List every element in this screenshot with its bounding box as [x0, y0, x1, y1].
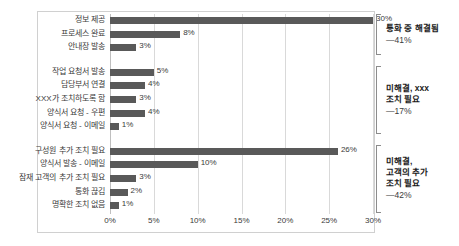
bar-row: 명확한 조치 없음1%	[110, 200, 373, 212]
bar	[110, 123, 119, 130]
bar-row: 통화 끊김2%	[110, 187, 373, 199]
x-tick-label: 25%	[321, 216, 337, 225]
bar-value-label: 2%	[131, 185, 143, 197]
bar	[110, 148, 338, 155]
bar-value-label: 4%	[148, 106, 160, 118]
group-annotation: 미해결, xxx 조치 필요—17%	[376, 66, 459, 134]
bar	[110, 96, 136, 103]
bar-row: 양식서 요청 - 우편4%	[110, 108, 373, 120]
bar-value-label: 3%	[139, 40, 151, 52]
annotation-text: 미해결, xxx 조치 필요—17%	[381, 83, 429, 117]
group-annotations: 통화 중 해결됨—41%미해결, xxx 조치 필요—17%미해결, 고객의 추…	[376, 0, 459, 246]
bar-value-label: 10%	[201, 157, 217, 169]
bar-value-label: 3%	[139, 171, 151, 183]
category-label: 정보 제공	[0, 14, 110, 26]
bar	[110, 202, 119, 209]
chart-page: 정보 제공30%프로세스 완료8%안내장 발송3%작업 요청서 발송5%담당부서…	[0, 0, 459, 246]
bar-row: 담당부서 연결4%	[110, 80, 373, 92]
category-label: 명확한 조치 없음	[0, 199, 110, 211]
x-tick-label: 20%	[277, 216, 293, 225]
bar-row: XXX가 조치하도록 함3%	[110, 94, 373, 106]
bar-row: 양식서 발송 - 이메일10%	[110, 159, 373, 171]
bar	[110, 69, 154, 76]
bar-row: 잠재 고객의 추가 조치 필요3%	[110, 173, 373, 185]
bar-value-label: 1%	[122, 198, 134, 210]
gridline-30	[373, 14, 374, 214]
bar-row: 작업 요청서 발송5%	[110, 67, 373, 79]
x-tick-label: 5%	[148, 216, 160, 225]
bar-rows: 정보 제공30%프로세스 완료8%안내장 발송3%작업 요청서 발송5%담당부서…	[110, 14, 373, 214]
annotation-title: 미해결, 고객의 추가 조치 필요	[386, 156, 428, 189]
bar-value-label: 3%	[139, 92, 151, 104]
bar-row: 안내장 발송3%	[110, 42, 373, 54]
group-annotation: 미해결, 고객의 추가 조치 필요—42%	[376, 145, 459, 213]
bar-row: 프로세스 완료8%	[110, 29, 373, 41]
annotation-text: 미해결, 고객의 추가 조치 필요—42%	[381, 156, 428, 201]
bar	[110, 31, 180, 38]
bar-value-label: 1%	[122, 119, 134, 131]
category-label: 양식서 발송 - 이메일	[0, 158, 110, 170]
bar	[110, 189, 128, 196]
category-label: 양식서 요청 - 우편	[0, 107, 110, 119]
annotation-value: —17%	[386, 106, 429, 117]
bar	[110, 44, 136, 51]
annotation-value: —42%	[386, 190, 428, 201]
annotation-text: 통화 중 해결됨—41%	[381, 23, 439, 46]
bar	[110, 82, 145, 89]
bar-value-label: 8%	[183, 27, 195, 39]
x-tick-label: 15%	[233, 216, 249, 225]
bar-value-label: 5%	[157, 65, 169, 77]
category-label: 프로세스 완료	[0, 28, 110, 40]
category-label: 통화 끊김	[0, 186, 110, 198]
category-label: 구성원 추가 조치 필요	[0, 145, 110, 157]
annotation-title: 통화 중 해결됨	[386, 23, 439, 34]
group-annotation: 통화 중 해결됨—41%	[376, 14, 459, 55]
plot-area: 정보 제공30%프로세스 완료8%안내장 발송3%작업 요청서 발송5%담당부서…	[110, 14, 373, 214]
category-label: 양식서 요청 - 이메일	[0, 120, 110, 132]
bar-value-label: 4%	[148, 78, 160, 90]
x-tick-label: 0%	[104, 216, 116, 225]
bar	[110, 161, 198, 168]
x-tick-label: 10%	[190, 216, 206, 225]
bar-row: 정보 제공30%	[110, 15, 373, 27]
x-axis-ticks: 0%5%10%15%20%25%30%	[110, 216, 373, 230]
category-label: 잠재 고객의 추가 조치 필요	[0, 172, 110, 184]
category-label: 안내장 발송	[0, 41, 110, 53]
bar-row: 구성원 추가 조치 필요26%	[110, 146, 373, 158]
bar	[110, 110, 145, 117]
bar-row: 양식서 요청 - 이메일1%	[110, 121, 373, 133]
category-label: 작업 요청서 발송	[0, 66, 110, 78]
category-label: XXX가 조치하도록 함	[0, 93, 110, 105]
bar	[110, 175, 136, 182]
bar-value-label: 26%	[341, 144, 357, 156]
annotation-title: 미해결, xxx 조치 필요	[386, 83, 429, 105]
category-label: 담당부서 연결	[0, 79, 110, 91]
bar	[110, 17, 373, 24]
annotation-value: —41%	[386, 35, 439, 46]
